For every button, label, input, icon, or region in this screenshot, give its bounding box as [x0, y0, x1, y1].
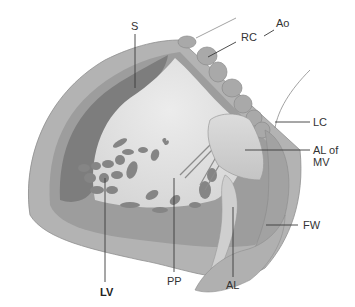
label-al-of-mv-line1: AL of — [313, 144, 339, 156]
label-al-of-mv-line2: MV — [313, 156, 330, 168]
leader-ao — [264, 30, 274, 36]
heart-lv-diagram: S Ao RC LC AL of MV FW LV PP AL — [0, 0, 355, 307]
label-right-cusp: RC — [241, 31, 257, 43]
label-anterolateral-papillary: AL — [226, 279, 239, 291]
aorta-outline-lc — [275, 70, 310, 128]
label-left-ventricle: LV — [100, 286, 114, 298]
label-posterior-papillary: PP — [167, 275, 182, 287]
label-free-wall: FW — [303, 219, 321, 231]
label-septum: S — [131, 20, 138, 32]
aorta-outline — [196, 18, 236, 38]
label-aorta: Ao — [276, 17, 289, 29]
label-left-cusp: LC — [313, 116, 327, 128]
